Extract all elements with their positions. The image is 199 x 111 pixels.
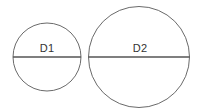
figure-large-circle — [89, 7, 190, 108]
large-circle-label: D2 — [133, 43, 148, 54]
figure-small-circle — [13, 23, 81, 91]
small-circle-label: D1 — [40, 43, 55, 54]
diagram-canvas: D1 D2 — [0, 0, 199, 111]
diagram-svg — [0, 0, 199, 111]
